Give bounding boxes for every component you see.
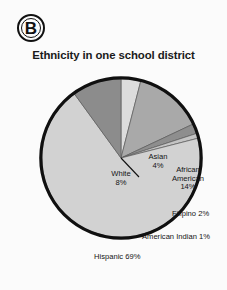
slice-label-white: White 8% (104, 170, 138, 187)
slice-label-african-american: African American 14% (166, 166, 210, 192)
panel-letter: B (25, 20, 37, 37)
slice-label-filipino: Filipino 2% (172, 210, 227, 219)
figure-root: B Ethnicity in one school district Asian… (0, 0, 227, 290)
chart-title: Ethnicity in one school district (0, 49, 227, 61)
panel-letter-badge: B (17, 14, 45, 42)
slice-label-american-indian: American Indian 1% (142, 233, 227, 242)
pie-chart: Asian 4% African American 14% Filipino 2… (38, 73, 204, 247)
slice-label-hispanic: Hispanic 69% (94, 253, 170, 262)
pie-chart-svg (38, 73, 204, 247)
